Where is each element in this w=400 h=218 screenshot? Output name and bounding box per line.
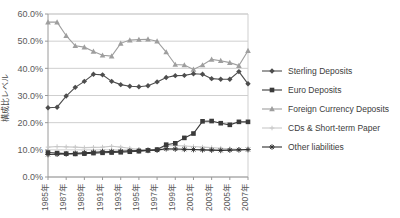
- x-tick-label: 2005年: [222, 183, 232, 211]
- legend-item-euro-deposits[interactable]: Euro Deposits: [262, 85, 341, 95]
- legend-item-sterling-deposits[interactable]: Sterling Deposits: [262, 66, 352, 76]
- x-tick-label: 2001年: [185, 183, 195, 211]
- data-point-marker: [73, 145, 78, 150]
- y-tick-label: 20.0%: [17, 118, 43, 128]
- legend-label: Foreign Currency Deposits: [288, 104, 389, 114]
- y-tick-label: 0.0%: [22, 172, 43, 182]
- data-point-marker: [46, 145, 51, 150]
- data-point-marker: [136, 84, 141, 89]
- data-point-marker: [91, 49, 97, 54]
- data-point-marker: [191, 71, 196, 76]
- x-tick-label: 1985年: [40, 183, 50, 211]
- y-tick-label: 60.0%: [17, 9, 43, 19]
- x-tick-label: 2003年: [204, 183, 214, 211]
- data-point-marker: [109, 144, 114, 149]
- data-point-marker: [236, 147, 242, 153]
- legend-item-cds-short-term-paper[interactable]: CDs & Short-term Paper: [262, 123, 380, 133]
- x-tick-label: 1997年: [149, 183, 159, 211]
- data-point-marker: [73, 152, 78, 157]
- data-point-marker: [245, 48, 251, 53]
- data-point-marker: [64, 151, 69, 156]
- y-tick-label: 30.0%: [17, 91, 43, 101]
- x-tick-label: 1991年: [95, 183, 105, 211]
- data-point-marker: [182, 73, 187, 78]
- line-chart: 0.0%10.0%20.0%30.0%40.0%50.0%60.0% 1985年…: [0, 0, 400, 218]
- data-point-marker: [82, 151, 87, 156]
- data-point-marker: [173, 141, 178, 146]
- series-sterling-deposits: [45, 69, 250, 111]
- data-point-marker: [46, 150, 51, 155]
- data-point-marker: [200, 62, 206, 67]
- data-point-marker: [64, 145, 69, 150]
- data-point-marker: [82, 145, 87, 150]
- data-point-marker: [100, 145, 105, 150]
- data-point-marker: [218, 121, 223, 126]
- data-point-marker: [209, 56, 215, 61]
- x-tick-label: 1993年: [113, 183, 123, 211]
- data-point-marker: [118, 150, 123, 155]
- x-axis-tick-labels: 1985年1987年1989年1991年1993年1995年1997年1999年…: [40, 177, 250, 211]
- data-point-marker: [55, 151, 60, 156]
- data-point-marker: [173, 73, 178, 78]
- data-point-marker: [137, 149, 142, 154]
- series-foreign-currency-deposits: [45, 19, 251, 71]
- x-tick-label: 1995年: [131, 183, 141, 211]
- data-point-marker: [228, 123, 233, 128]
- data-point-marker: [200, 119, 205, 124]
- data-point-marker: [200, 147, 206, 153]
- data-point-marker: [91, 145, 96, 150]
- data-point-marker: [128, 149, 133, 154]
- y-axis-title-label: 構成比レベル: [0, 74, 10, 122]
- legend-label: CDs & Short-term Paper: [288, 123, 380, 133]
- y-tick-label: 10.0%: [17, 145, 43, 155]
- data-point-marker: [245, 147, 251, 153]
- legend-label: Other liabilities: [288, 142, 344, 152]
- data-point-marker: [269, 68, 274, 73]
- data-point-marker: [200, 72, 205, 77]
- data-point-marker: [154, 79, 159, 84]
- data-point-marker: [237, 120, 242, 125]
- data-point-marker: [155, 147, 160, 152]
- data-point-marker: [118, 82, 123, 87]
- data-point-marker: [209, 119, 214, 124]
- y-tick-label: 50.0%: [17, 36, 43, 46]
- data-point-marker: [45, 105, 50, 110]
- data-point-marker: [246, 120, 251, 125]
- data-point-marker: [127, 84, 132, 89]
- data-point-marker: [191, 131, 196, 136]
- data-point-marker: [91, 151, 96, 156]
- data-point-marker: [270, 126, 275, 131]
- legend-item-foreign-currency-deposits[interactable]: Foreign Currency Deposits: [262, 104, 389, 114]
- data-point-marker: [209, 76, 214, 81]
- y-axis-title: 構成比レベル: [0, 74, 10, 122]
- y-axis-tick-labels: 0.0%10.0%20.0%30.0%40.0%50.0%60.0%: [17, 9, 48, 182]
- x-tick-label: 1987年: [58, 183, 68, 211]
- chart-legend: Sterling DepositsEuro DepositsForeign Cu…: [262, 66, 389, 152]
- x-tick-label: 1999年: [167, 183, 177, 211]
- data-point-marker: [182, 146, 188, 152]
- data-point-marker: [218, 77, 223, 82]
- data-point-marker: [269, 144, 275, 150]
- data-point-marker: [55, 144, 60, 149]
- series-line: [48, 72, 248, 108]
- data-point-marker: [164, 142, 169, 147]
- x-tick-label: 1989年: [76, 183, 86, 211]
- data-point-marker: [146, 148, 151, 153]
- data-point-marker: [172, 146, 178, 152]
- data-point-marker: [270, 88, 275, 93]
- data-point-marker: [191, 67, 197, 72]
- data-point-marker: [163, 75, 168, 80]
- plot-series: [45, 19, 251, 157]
- data-point-marker: [109, 150, 114, 155]
- data-point-marker: [182, 136, 187, 141]
- series-line: [48, 22, 248, 69]
- legend-label: Euro Deposits: [288, 85, 341, 95]
- data-point-marker: [100, 151, 105, 156]
- y-tick-label: 40.0%: [17, 64, 43, 74]
- data-point-marker: [191, 147, 197, 153]
- chart-container: 0.0%10.0%20.0%30.0%40.0%50.0%60.0% 1985年…: [0, 0, 400, 218]
- legend-label: Sterling Deposits: [288, 66, 352, 76]
- legend-item-other-liabilities[interactable]: Other liabilities: [262, 142, 344, 152]
- data-point-marker: [145, 83, 150, 88]
- x-tick-label: 2007年: [240, 183, 250, 211]
